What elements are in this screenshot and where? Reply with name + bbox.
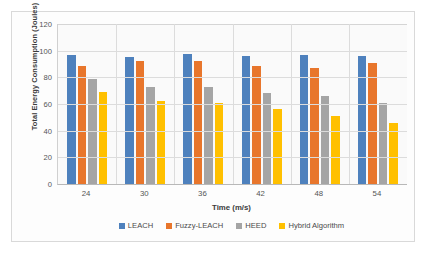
bar[interactable] xyxy=(331,116,340,184)
y-axis-tick-label: 100 xyxy=(26,46,52,55)
bar[interactable] xyxy=(78,66,87,184)
bar[interactable] xyxy=(379,103,388,184)
bar[interactable] xyxy=(146,87,155,184)
x-axis-tick-label: 42 xyxy=(232,189,290,198)
plot-area xyxy=(57,24,407,185)
x-axis-tick-label: 24 xyxy=(57,189,115,198)
bar[interactable] xyxy=(321,96,330,184)
bar[interactable] xyxy=(389,123,398,184)
x-axis-tick-label: 36 xyxy=(173,189,231,198)
bar[interactable] xyxy=(263,93,272,184)
legend-item[interactable]: LEACH xyxy=(119,221,153,230)
bar[interactable] xyxy=(358,56,367,184)
legend-item[interactable]: Fuzzy-LEACH xyxy=(166,221,223,230)
gridline-vertical xyxy=(233,24,234,184)
bar[interactable] xyxy=(136,61,145,184)
legend-swatch-icon xyxy=(119,223,125,229)
bar[interactable] xyxy=(215,103,224,184)
legend-item[interactable]: HEED xyxy=(236,221,266,230)
gridline-vertical xyxy=(291,24,292,184)
bar[interactable] xyxy=(194,61,203,184)
chart-container: Total Energy Consumption (Joules) 020406… xyxy=(0,0,427,256)
y-axis-tick-label: 0 xyxy=(26,180,52,189)
y-axis-tick-label: 40 xyxy=(26,126,52,135)
bar[interactable] xyxy=(157,101,166,184)
legend-label: Hybrid Algorithm xyxy=(288,221,344,230)
bar[interactable] xyxy=(242,56,251,184)
bar[interactable] xyxy=(368,63,377,184)
y-axis-tick-label: 80 xyxy=(26,73,52,82)
bar[interactable] xyxy=(252,66,261,184)
gridline-vertical xyxy=(174,24,175,184)
bar[interactable] xyxy=(125,57,134,184)
bar[interactable] xyxy=(204,87,213,184)
bar[interactable] xyxy=(99,92,108,184)
legend-label: LEACH xyxy=(128,221,153,230)
gridline-vertical xyxy=(116,24,117,184)
bar[interactable] xyxy=(67,55,76,184)
legend-swatch-icon xyxy=(279,223,285,229)
y-axis-tick-label: 20 xyxy=(26,153,52,162)
bar[interactable] xyxy=(300,55,309,184)
gridline-vertical xyxy=(349,24,350,184)
x-axis-tick-label: 30 xyxy=(115,189,173,198)
legend-label: HEED xyxy=(245,221,266,230)
x-axis-tick-label: 54 xyxy=(348,189,406,198)
y-axis-tick-labels: 020406080100120 xyxy=(26,18,52,190)
legend-swatch-icon xyxy=(166,223,172,229)
y-axis-tick-label: 60 xyxy=(26,100,52,109)
bar[interactable] xyxy=(183,54,192,184)
legend-swatch-icon xyxy=(236,223,242,229)
bar[interactable] xyxy=(273,109,282,184)
y-axis-tick-label: 120 xyxy=(26,20,52,29)
x-axis-title: Time (m/s) xyxy=(57,203,406,212)
legend-item[interactable]: Hybrid Algorithm xyxy=(279,221,344,230)
legend-label: Fuzzy-LEACH xyxy=(175,221,223,230)
x-axis-tick-labels: 243036424854 xyxy=(57,189,406,198)
chart-legend: LEACHFuzzy-LEACHHEEDHybrid Algorithm xyxy=(57,221,406,230)
x-axis-tick-label: 48 xyxy=(290,189,348,198)
bar[interactable] xyxy=(310,68,319,184)
